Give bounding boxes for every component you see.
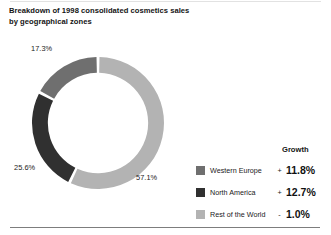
page-title-line-1: Breakdown of 1998 consolidated cosmetics…: [9, 6, 234, 17]
bottom-divider: [10, 227, 320, 228]
slice-label-north-america: 25.6%: [14, 163, 35, 172]
legend-growth-header: Growth: [282, 145, 309, 154]
chart-figure: Breakdown of 1998 consolidated cosmetics…: [0, 0, 331, 235]
legend-label-western-europe: Western Europe: [210, 166, 262, 175]
legend-item-western-europe[interactable]: Western Europe + 11.8%: [196, 165, 326, 176]
top-divider: [10, 1, 321, 2]
donut-slice[interactable]: [71, 57, 164, 189]
legend-label-north-america: North America: [210, 188, 256, 197]
legend-sign-rest-of-world: -: [276, 210, 283, 219]
legend-swatch-north-america: [196, 188, 205, 197]
donut-slice[interactable]: [32, 94, 75, 182]
page-title: Breakdown of 1998 consolidated cosmetics…: [9, 6, 234, 27]
legend-growth-rest-of-world: 1.0%: [286, 208, 310, 220]
legend-swatch-western-europe: [196, 166, 205, 175]
slice-label-western-europe: 17.3%: [31, 44, 52, 53]
slice-label-rest-of-world: 57.1%: [136, 173, 157, 182]
legend-swatch-rest-of-world: [196, 210, 205, 219]
donut-chart-svg: [28, 53, 168, 193]
legend-growth-western-europe: 11.8%: [286, 164, 315, 176]
legend-sign-western-europe: +: [276, 166, 283, 175]
legend-item-north-america[interactable]: North America + 12.7%: [196, 187, 326, 198]
legend-growth-north-america: 12.7%: [286, 186, 316, 198]
donut-chart: [28, 53, 168, 193]
donut-slice[interactable]: [40, 57, 97, 99]
legend-label-rest-of-world: Rest of the World: [210, 210, 265, 219]
page-title-line-2: by geographical zones: [9, 17, 234, 28]
legend-sign-north-america: +: [276, 188, 283, 197]
donut-slice-group: [32, 57, 164, 189]
legend-item-rest-of-world[interactable]: Rest of the World - 1.0%: [196, 209, 326, 220]
